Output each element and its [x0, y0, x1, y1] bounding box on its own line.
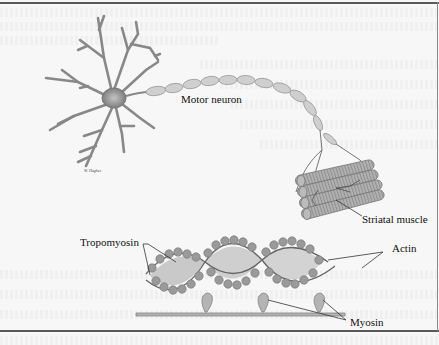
label-striatal-muscle: Striatal muscle: [362, 213, 428, 225]
label-tropomyosin: Tropomyosin: [80, 236, 139, 248]
neuron-cell-body: [102, 88, 126, 108]
label-actin: Actin: [392, 242, 416, 254]
striated-muscle-fibers: [295, 160, 384, 220]
motor-neuron-axon: [126, 75, 338, 146]
artist-signature: W. Hughes: [84, 168, 101, 173]
label-motor-neuron: Motor neuron: [181, 93, 242, 105]
motor-neuron-dendrites: [46, 16, 160, 166]
label-myosin: Myosin: [350, 316, 384, 328]
myosin-filament: [136, 293, 345, 316]
neuromuscular-figure: [0, 0, 439, 345]
